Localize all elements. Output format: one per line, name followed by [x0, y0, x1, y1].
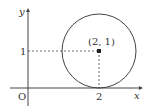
coordinate-diagram: x y O 2 1 (2, 1)	[0, 0, 146, 112]
x-tick-label-2: 2	[96, 91, 102, 102]
y-axis-label: y	[18, 6, 25, 17]
y-axis-arrow-icon	[26, 8, 30, 12]
center-point	[97, 49, 101, 53]
center-label: (2, 1)	[88, 36, 115, 47]
y-tick-label-1: 1	[20, 46, 26, 57]
origin-label: O	[18, 91, 26, 102]
x-axis-label: x	[134, 90, 140, 101]
